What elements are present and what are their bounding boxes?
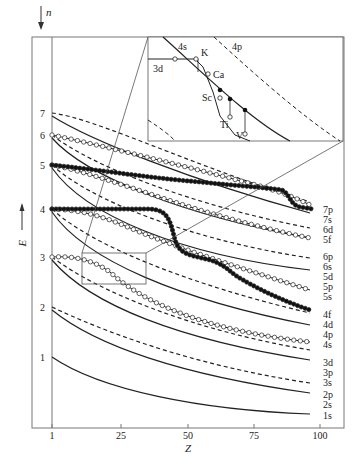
curve-marker bbox=[121, 172, 125, 176]
svg-text:1: 1 bbox=[50, 430, 55, 441]
svg-text:1: 1 bbox=[40, 352, 45, 363]
curve-marker bbox=[62, 136, 66, 140]
curve-marker bbox=[70, 165, 74, 169]
curve-marker bbox=[301, 199, 305, 203]
curve-marker bbox=[295, 197, 299, 201]
curve-marker bbox=[118, 207, 122, 211]
curve-marker bbox=[177, 178, 181, 182]
curve-marker bbox=[215, 323, 219, 327]
curve-marker bbox=[110, 207, 114, 211]
curve-marker bbox=[183, 164, 187, 168]
curve-marker bbox=[298, 339, 302, 343]
curve-marker bbox=[162, 196, 166, 200]
curve-marker bbox=[161, 176, 165, 180]
curve-marker bbox=[137, 230, 141, 234]
curve-marker bbox=[268, 227, 272, 231]
curve-marker bbox=[174, 200, 178, 204]
inset-label-K: K bbox=[201, 47, 209, 58]
curve-marker bbox=[116, 277, 120, 281]
curve-marker bbox=[50, 207, 54, 211]
curve-marker bbox=[66, 207, 70, 211]
curve-marker bbox=[82, 207, 86, 211]
curve-marker bbox=[86, 167, 90, 171]
curve-marker bbox=[180, 202, 184, 206]
svg-text:5f: 5f bbox=[323, 234, 332, 245]
curve-marker bbox=[110, 170, 114, 174]
curve-2s bbox=[52, 310, 310, 393]
curve-marker bbox=[287, 231, 291, 235]
energy-level-chart: n E 7 6 5 4 3 2 1 1 25 50 75 100 Z bbox=[0, 0, 363, 471]
curve-marker bbox=[303, 286, 307, 290]
curve-marker bbox=[260, 333, 264, 337]
curve-marker bbox=[102, 169, 106, 173]
n-axis-label: n bbox=[46, 6, 52, 18]
curve-marker bbox=[195, 255, 199, 259]
curve-marker bbox=[199, 256, 203, 260]
curve-marker bbox=[156, 194, 160, 198]
curve-marker bbox=[131, 186, 135, 190]
curve-marker bbox=[164, 160, 168, 164]
level-labels: 7 6 5 4 3 2 1 bbox=[40, 108, 45, 363]
curve-marker bbox=[214, 172, 218, 176]
curve-marker bbox=[75, 138, 79, 142]
curve-marker bbox=[190, 315, 194, 319]
svg-text:25: 25 bbox=[116, 430, 126, 441]
curve-marker bbox=[306, 235, 310, 239]
curve-marker bbox=[184, 313, 188, 317]
x-axis-ticks bbox=[52, 424, 320, 428]
curve-marker bbox=[193, 180, 197, 184]
curve-marker bbox=[253, 332, 257, 336]
curve-marker bbox=[153, 175, 157, 179]
curve-marker bbox=[221, 325, 225, 329]
curve-marker bbox=[205, 210, 209, 214]
curve-marker bbox=[196, 317, 200, 321]
curve-marker bbox=[240, 329, 244, 333]
curve-marker bbox=[126, 150, 130, 154]
curve-marker bbox=[309, 207, 313, 211]
curve-marker bbox=[76, 256, 80, 260]
curve-marker bbox=[113, 220, 117, 224]
curve-marker bbox=[249, 185, 253, 189]
curve-marker bbox=[107, 146, 111, 150]
svg-text:5s: 5s bbox=[323, 291, 332, 302]
curve-3s bbox=[52, 260, 310, 360]
curve-marker bbox=[239, 179, 243, 183]
curve-marker bbox=[88, 260, 92, 264]
curve-marker bbox=[81, 171, 85, 175]
curve-marker bbox=[237, 219, 241, 223]
curve-marker bbox=[155, 237, 159, 241]
curve-marker bbox=[107, 218, 111, 222]
curve-1s bbox=[52, 357, 310, 414]
curve-marker bbox=[172, 309, 176, 313]
curve-marker bbox=[278, 279, 282, 283]
curve-marker bbox=[233, 177, 237, 181]
curve-marker bbox=[98, 169, 102, 173]
inset-label-Ti: Ti bbox=[220, 119, 229, 130]
curve-marker bbox=[248, 269, 252, 273]
curve-marker bbox=[195, 168, 199, 172]
curve-marker bbox=[274, 228, 278, 232]
curve-marker bbox=[54, 163, 58, 167]
curve-marker bbox=[237, 184, 241, 188]
curve-marker bbox=[120, 149, 124, 153]
curve-marker bbox=[300, 234, 304, 238]
curve-marker bbox=[143, 295, 147, 299]
curve-marker bbox=[132, 288, 136, 292]
curve-marker bbox=[241, 184, 245, 188]
curve-marker bbox=[62, 207, 66, 211]
curve-marker bbox=[168, 198, 172, 202]
curve-marker bbox=[272, 277, 276, 281]
curve-marker bbox=[165, 177, 169, 181]
curve-marker bbox=[197, 180, 201, 184]
curve-marker bbox=[218, 214, 222, 218]
curve-marker bbox=[119, 222, 123, 226]
svg-text:100: 100 bbox=[313, 430, 328, 441]
zoom-source-rect bbox=[82, 253, 146, 284]
curve-marker bbox=[272, 335, 276, 339]
curve-marker bbox=[291, 283, 295, 287]
e-axis-label: E bbox=[16, 239, 28, 247]
curve-marker bbox=[142, 207, 146, 211]
curve-marker bbox=[285, 281, 289, 285]
curve-marker bbox=[151, 157, 155, 161]
curve-marker bbox=[94, 262, 98, 266]
